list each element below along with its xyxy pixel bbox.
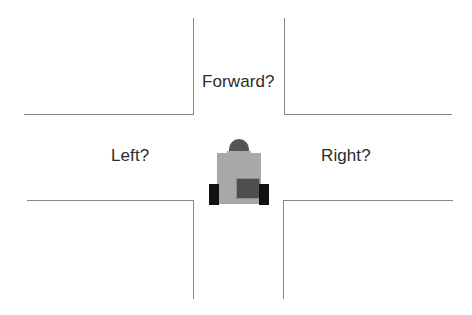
road-line-top-left-vertical — [193, 18, 194, 115]
road-line-top-right-horizontal — [284, 114, 452, 115]
direction-label-forward: Forward? — [202, 72, 275, 92]
robot-screen-icon — [236, 178, 260, 199]
road-line-top-right-vertical — [284, 18, 285, 115]
road-line-bottom-left-horizontal — [27, 200, 194, 201]
direction-label-right: Right? — [321, 146, 371, 166]
robot-body — [217, 153, 261, 204]
robot-foot-left — [209, 184, 219, 205]
road-line-bottom-left-vertical — [193, 200, 194, 299]
road-line-bottom-right-vertical — [283, 200, 284, 299]
road-line-top-left-horizontal — [24, 114, 194, 115]
direction-label-left: Left? — [111, 146, 149, 166]
robot-foot-right — [259, 184, 269, 205]
crossroads-scene: Forward? Left? Right? — [0, 0, 472, 315]
robot-icon — [208, 139, 269, 206]
road-line-bottom-right-horizontal — [283, 200, 453, 201]
